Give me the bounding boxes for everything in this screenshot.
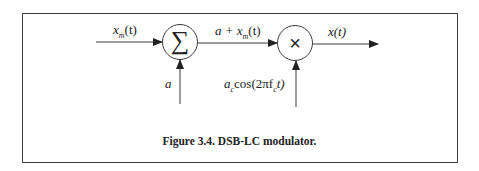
figure-caption: Figure 3.4. DSB-LC modulator.	[0, 135, 479, 147]
output-signal-label: x(t)	[328, 24, 346, 40]
sum-output-label: a + xm(t)	[215, 23, 261, 41]
summation-icon: ∑	[166, 26, 194, 56]
input-signal-label: xm(t)	[113, 22, 137, 40]
multiply-icon: ×	[283, 31, 307, 55]
offset-label: a	[165, 76, 172, 92]
carrier-label: accos(2πfct)	[224, 76, 285, 94]
